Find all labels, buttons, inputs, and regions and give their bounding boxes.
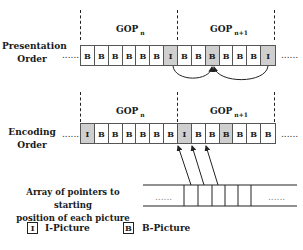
legend-b-symbol: B	[123, 222, 134, 234]
pointer-arrow	[206, 146, 218, 185]
legend-i-symbol: I	[27, 222, 38, 234]
reference-arc	[173, 66, 212, 78]
diagram-connectors	[0, 0, 303, 250]
pointer-arrow	[192, 146, 204, 185]
legend-b-label: B-Picture	[142, 223, 190, 233]
pointer-arrow	[178, 146, 191, 185]
legend-i-label: I-Picture	[45, 223, 90, 233]
reference-arc	[214, 66, 268, 80]
